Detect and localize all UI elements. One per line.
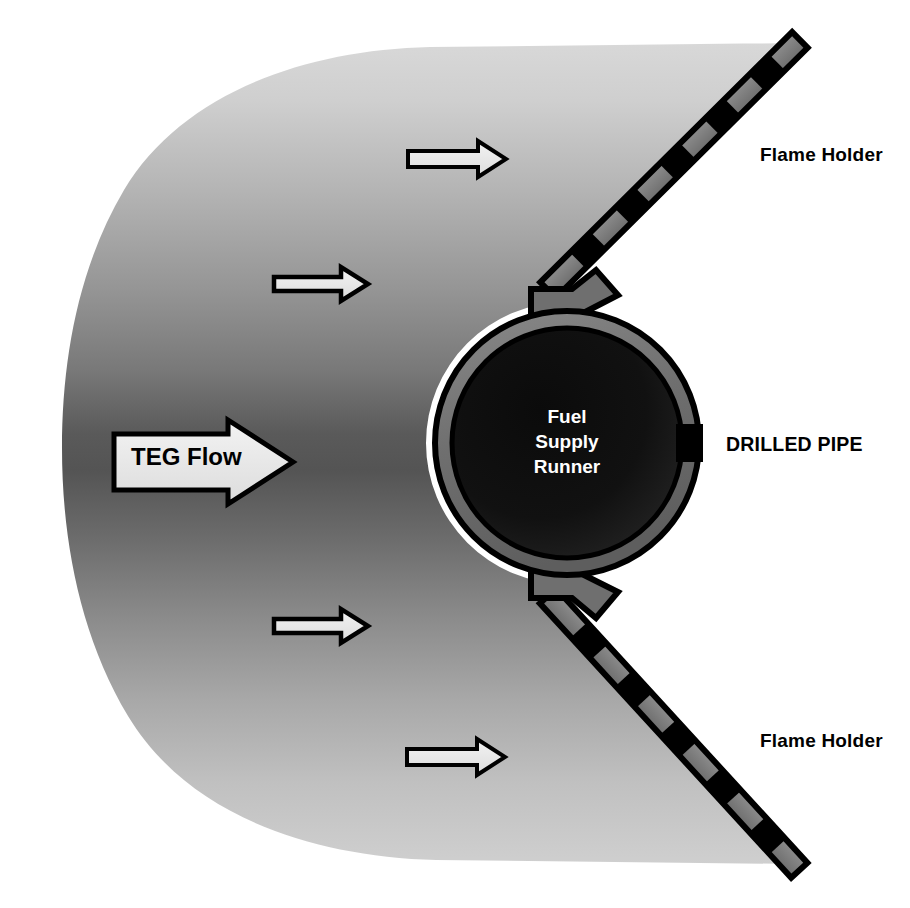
label-flame-holder-bottom: Flame Holder [760,730,883,752]
label-fuel-supply-runner: Fuel Supply Runner [512,404,622,479]
label-fuel-supply-runner-line-1: Fuel [512,404,622,429]
label-fuel-supply-runner-line-2: Supply [512,429,622,454]
pipe-drill-hole-fill [676,424,703,462]
label-teg-flow: TEG Flow [131,443,242,471]
diagram-canvas: Flame Holder Flame Holder DRILLED PIPE T… [0,0,910,908]
label-drilled-pipe: DRILLED PIPE [726,433,863,456]
label-flame-holder-top: Flame Holder [760,144,883,166]
label-fuel-supply-runner-line-3: Runner [512,454,622,479]
